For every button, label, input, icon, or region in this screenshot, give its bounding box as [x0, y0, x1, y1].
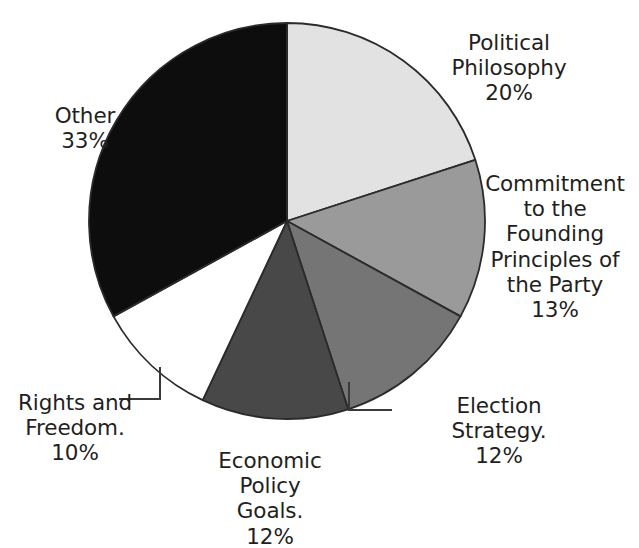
slice-label-commitment-percent: 13% [470, 297, 639, 322]
slice-label-rights-freedom-percent: 10% [2, 440, 148, 465]
slice-label-other: Other 33% [20, 78, 150, 179]
slice-label-other-percent: 33% [20, 128, 150, 153]
slice-label-economic-policy-text: Economic Policy Goals. [218, 448, 321, 523]
slice-label-election-strategy-text: Election Strategy. [452, 393, 547, 443]
slice-label-economic-policy: Economic Policy Goals. 12% [196, 423, 344, 548]
slice-label-commitment-text: Commitment to the Founding Principles of… [485, 171, 625, 297]
slice-label-political-philosophy-percent: 20% [414, 80, 604, 105]
slice-label-election-strategy: Election Strategy. 12% [430, 368, 568, 494]
slice-label-economic-policy-percent: 12% [196, 524, 344, 548]
slice-label-election-strategy-percent: 12% [430, 443, 568, 468]
slice-label-commitment: Commitment to the Founding Principles of… [470, 146, 639, 347]
slice-label-other-text: Other [55, 103, 116, 128]
slice-label-rights-freedom-text: Rights and Freedom. [18, 390, 132, 440]
slice-label-rights-freedom: Rights and Freedom. 10% [2, 365, 148, 491]
slice-label-political-philosophy: Political Philosophy 20% [414, 5, 604, 131]
slice-label-political-philosophy-text: Political Philosophy [451, 30, 566, 80]
